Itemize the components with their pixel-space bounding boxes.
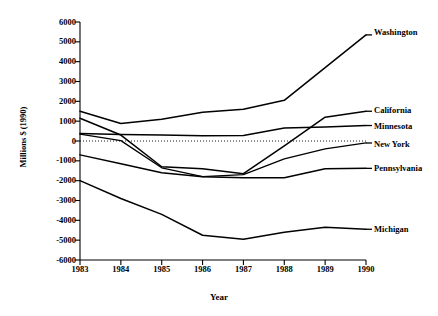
series-label-california: California — [374, 106, 411, 115]
series-label-washington: Washington — [374, 28, 417, 37]
line-chart-figure: Millions $ (1990) 6000500040003000200010… — [0, 0, 438, 316]
series-label-pennsylvania: Pennsylvania — [374, 164, 422, 173]
series-label-minnesota: Minnesota — [374, 122, 412, 131]
series-label-new-york: New York — [374, 140, 410, 149]
series-labels: WashingtonCaliforniaMinnesotaNew YorkPen… — [0, 0, 438, 316]
series-label-michigan: Michigan — [374, 225, 408, 234]
